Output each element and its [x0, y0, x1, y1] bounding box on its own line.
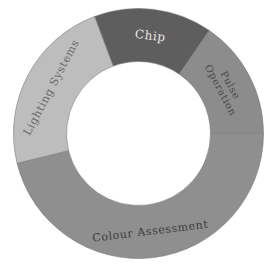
donut-chart: ChipPulseOperationColour AssessmentLight…	[0, 0, 272, 265]
donut-chart-svg: ChipPulseOperationColour AssessmentLight…	[0, 0, 272, 265]
donut-slices	[14, 8, 264, 258]
slice-lighting-systems	[14, 16, 114, 163]
